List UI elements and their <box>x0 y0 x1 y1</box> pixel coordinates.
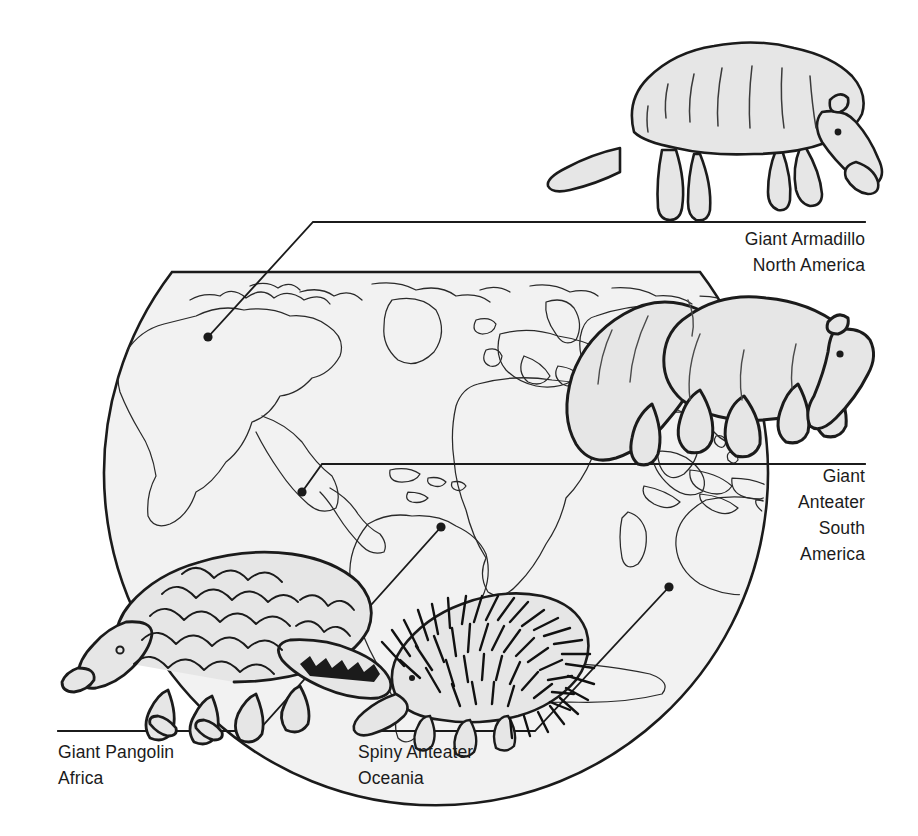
giant-anteater-illustration <box>567 297 874 465</box>
callout-label-pangolin: Giant Pangolin Africa <box>58 739 174 791</box>
spiny-anteater-illustration <box>354 593 594 756</box>
callout-animal-spiny: Spiny Anteater <box>358 739 473 765</box>
callout-label-anteater: Giant Anteater South America <box>798 463 865 567</box>
callout-region-spiny: Oceania <box>358 765 473 791</box>
callout-region-anteater-line1: South <box>798 515 865 541</box>
callout-animal-anteater-line2: Anteater <box>798 489 865 515</box>
callout-region-anteater-line2: America <box>798 541 865 567</box>
callout-animal-armadillo: Giant Armadillo <box>745 226 865 252</box>
callout-animal-anteater-line1: Giant <box>798 463 865 489</box>
callout-region-armadillo: North America <box>745 252 865 278</box>
callout-label-armadillo: Giant Armadillo North America <box>745 226 865 278</box>
illustration-figure: Giant Armadillo North America Giant Ante… <box>0 0 918 836</box>
callout-label-spiny: Spiny Anteater Oceania <box>358 739 473 791</box>
callout-animal-pangolin: Giant Pangolin <box>58 739 174 765</box>
animals-layer <box>0 0 918 836</box>
giant-pangolin-illustration <box>62 552 391 744</box>
giant-armadillo-illustration <box>548 42 882 220</box>
callout-region-pangolin: Africa <box>58 765 174 791</box>
